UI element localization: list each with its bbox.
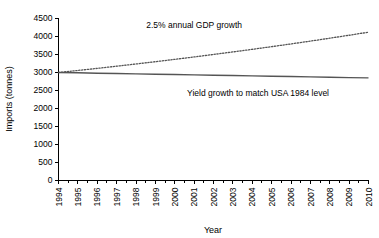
chart-figure: 050010001500200025003000350040004500 199… — [0, 0, 379, 238]
x-tick-label: 2003 — [228, 187, 238, 206]
y-tick-label: 1000 — [34, 139, 53, 149]
y-tick-label: 3500 — [34, 49, 53, 59]
x-tick-label: 2009 — [344, 187, 354, 206]
x-tick-label: 1998 — [131, 187, 141, 206]
y-tick-label: 500 — [38, 157, 52, 167]
y-tick-label: 4000 — [34, 31, 53, 41]
y-tick-label: 3000 — [34, 67, 53, 77]
x-tick-label: 1994 — [54, 187, 64, 206]
y-tick-label: 2500 — [34, 85, 53, 95]
x-tick-label: 2006 — [286, 187, 296, 206]
x-axis-ticks: 1994199519961997199819992000200120022003… — [54, 181, 374, 207]
y-tick-label: 1500 — [34, 121, 53, 131]
series-line-yield-growth — [59, 73, 369, 78]
x-tick-label: 2000 — [170, 187, 180, 206]
line-chart: 050010001500200025003000350040004500 199… — [0, 0, 379, 238]
annotation-label-2: Yield growth to match USA 1984 level — [187, 88, 329, 98]
x-tick-label: 2005 — [267, 187, 277, 206]
y-tick-label: 0 — [48, 175, 53, 185]
x-tick-label: 1995 — [73, 187, 83, 206]
x-tick-label: 2010 — [364, 187, 374, 206]
y-axis-ticks: 050010001500200025003000350040004500 — [34, 13, 59, 185]
x-axis-title: Year — [204, 225, 222, 235]
x-tick-label: 1996 — [92, 187, 102, 206]
y-tick-label: 2000 — [34, 103, 53, 113]
x-tick-label: 2008 — [325, 187, 335, 206]
x-tick-label: 2001 — [189, 187, 199, 206]
x-tick-label: 2004 — [247, 187, 257, 206]
x-tick-label: 1999 — [151, 187, 161, 206]
x-tick-label: 2002 — [209, 187, 219, 206]
series-line-gdp-growth — [59, 32, 369, 72]
x-tick-label: 2007 — [306, 187, 316, 206]
y-tick-label: 4500 — [34, 13, 53, 23]
y-axis-title: Imports (tonnes) — [4, 66, 14, 132]
x-tick-label: 1997 — [112, 187, 122, 206]
annotation-label-1: 2.5% annual GDP growth — [146, 20, 242, 30]
